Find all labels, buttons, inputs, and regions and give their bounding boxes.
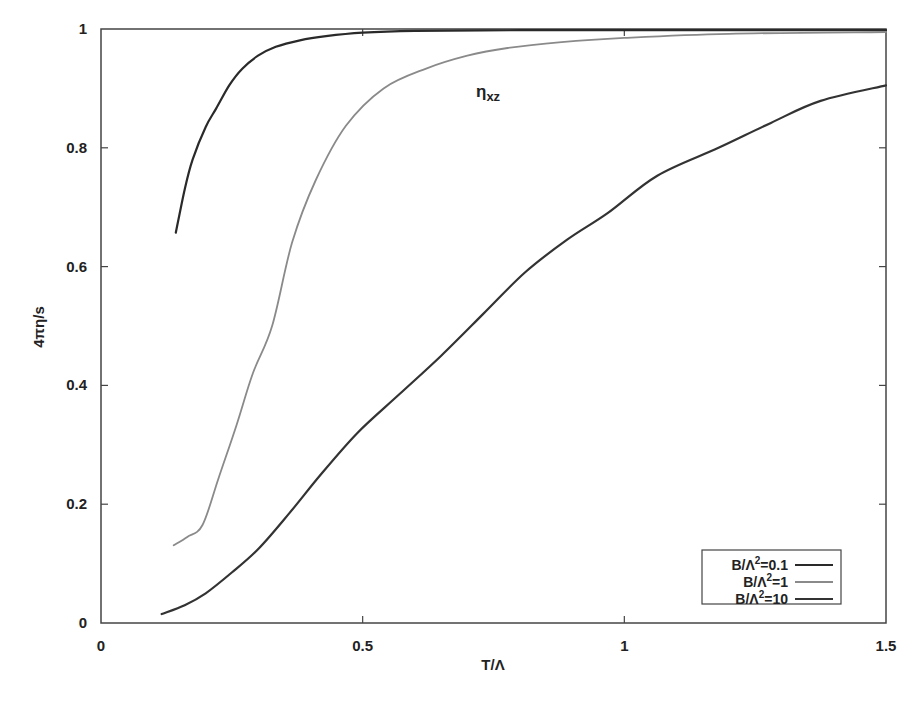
x-tick-label: 1.5	[876, 637, 897, 654]
y-tick-label: 0	[79, 614, 87, 631]
eta-xz-annotation: ηxz	[476, 82, 501, 104]
y-tick-label: 0.4	[66, 376, 88, 393]
curve-b-10	[162, 85, 886, 614]
y-axis-label: 4πη/s	[30, 306, 47, 348]
legend-label: B/Λ2=1	[743, 572, 788, 590]
annotation-subscript: xz	[486, 89, 500, 104]
x-axis-label: T/Λ	[481, 656, 504, 673]
curve-b-1	[174, 32, 886, 545]
data-curves	[162, 30, 886, 614]
annotation-base: η	[476, 82, 486, 101]
y-tick-label: 0.8	[66, 139, 87, 156]
y-axis-ticks: 00.20.40.60.81	[66, 20, 886, 631]
legend-label: B/Λ2=0.1	[731, 555, 788, 573]
line-chart: 00.511.5 00.20.40.60.81 T/Λ 4πη/s ηxz B/…	[0, 0, 920, 702]
curve-b-0-1	[176, 30, 886, 233]
x-tick-label: 0.5	[352, 637, 373, 654]
x-tick-label: 0	[97, 637, 105, 654]
legend: B/Λ2=0.1B/Λ2=1B/Λ2=10	[702, 550, 841, 607]
plot-frame	[101, 29, 886, 623]
y-tick-label: 0.6	[66, 258, 87, 275]
y-tick-label: 1	[79, 20, 87, 37]
x-tick-label: 1	[620, 637, 628, 654]
y-tick-label: 0.2	[66, 495, 87, 512]
